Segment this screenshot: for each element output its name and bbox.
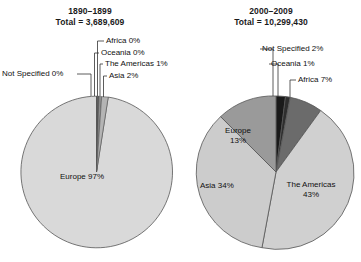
pie-label-americas-right-name: The Americas bbox=[287, 180, 336, 189]
leader-line-asia-left bbox=[104, 76, 108, 97]
pie-label-asia-left: Asia 2% bbox=[109, 71, 138, 81]
pie-label-not-specified-left: Not Specified 0% bbox=[2, 69, 63, 79]
leader-line-oceania-right bbox=[269, 64, 278, 97]
pie-label-americas-right: The Americas 43% bbox=[278, 180, 344, 199]
pie-label-europe-left: Europe 97% bbox=[60, 172, 104, 182]
leader-line-not-specified-left bbox=[77, 74, 91, 96]
leader-line-americas-left bbox=[100, 64, 103, 96]
pie-label-asia-right: Asia 34% bbox=[200, 181, 234, 191]
pie-label-europe-right-name: Europe bbox=[225, 126, 251, 135]
pie-label-africa-left: Africa 0% bbox=[106, 36, 140, 46]
pie-label-americas-left: The Americas 1% bbox=[105, 59, 168, 69]
pie-label-americas-right-value: 43% bbox=[278, 190, 344, 200]
leader-line-oceania-left bbox=[95, 53, 100, 96]
pie-chart-left bbox=[0, 0, 181, 262]
leader-line-not-specified-right bbox=[260, 49, 273, 96]
pie-label-africa-right: Africa 7% bbox=[298, 75, 332, 85]
pie-label-europe-right-value: 13% bbox=[215, 136, 261, 146]
pie-label-oceania-left: Oceania 0% bbox=[101, 48, 145, 58]
pie-chart-right bbox=[181, 0, 361, 262]
pie-label-oceania-right: Oceania 1% bbox=[271, 59, 315, 69]
pie-panel-2000-2009: 2000–2009 Total = 10,299,430 Not Specifi… bbox=[181, 0, 361, 262]
pie-panel-1890-1899: 1890–1899 Total = 3,689,609 Not Specifie… bbox=[0, 0, 180, 262]
pie-label-not-specified-right: Not Specified 2% bbox=[262, 44, 323, 54]
leader-line-africa-right bbox=[290, 80, 296, 97]
pie-label-europe-right: Europe 13% bbox=[215, 126, 261, 145]
